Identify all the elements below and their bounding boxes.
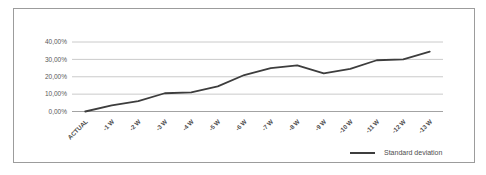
svg-text:-13 W: -13 W xyxy=(417,118,434,135)
svg-text:30,00%: 30,00% xyxy=(45,56,67,63)
chart-figure: 0,00%10,00%20,00%30,00%40,00%ACTUAL-1 W-… xyxy=(0,0,486,175)
svg-text:-11 W: -11 W xyxy=(364,118,380,134)
svg-text:-9 W: -9 W xyxy=(313,118,327,132)
legend-line-swatch xyxy=(350,152,375,154)
svg-text:20,00%: 20,00% xyxy=(45,73,67,80)
svg-text:-1 W: -1 W xyxy=(101,118,115,132)
svg-text:-6 W: -6 W xyxy=(234,118,248,132)
legend: Standard deviation xyxy=(350,149,442,157)
svg-text:10,00%: 10,00% xyxy=(45,90,67,97)
svg-text:-2 W: -2 W xyxy=(128,118,142,132)
svg-text:-5 W: -5 W xyxy=(207,118,221,132)
svg-text:ACTUAL: ACTUAL xyxy=(66,118,89,141)
svg-text:-12 W: -12 W xyxy=(390,118,407,135)
svg-text:40,00%: 40,00% xyxy=(45,38,67,45)
svg-text:-4 W: -4 W xyxy=(181,118,195,132)
legend-label: Standard deviation xyxy=(384,149,442,157)
svg-text:-7 W: -7 W xyxy=(260,118,274,132)
svg-text:-3 W: -3 W xyxy=(154,118,168,132)
svg-text:-10 W: -10 W xyxy=(337,118,354,135)
svg-text:0,00%: 0,00% xyxy=(49,108,68,115)
svg-text:-8 W: -8 W xyxy=(287,118,301,132)
